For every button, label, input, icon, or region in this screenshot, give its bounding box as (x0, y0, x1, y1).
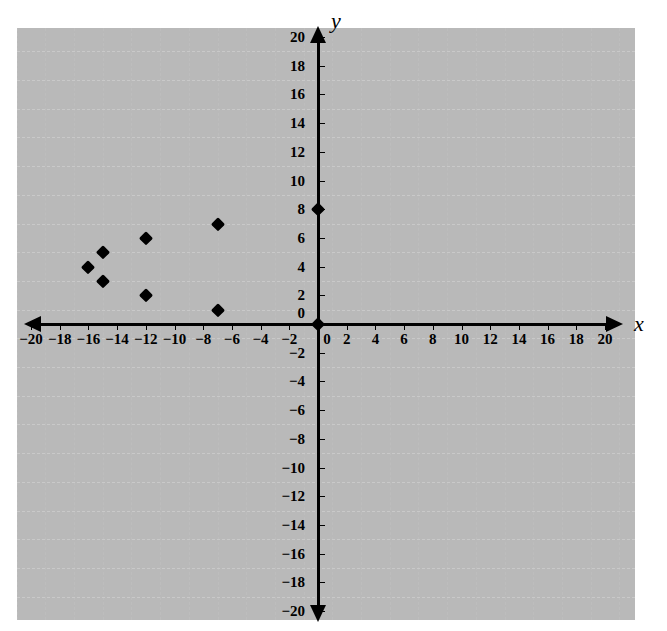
y-axis-tick (318, 238, 325, 239)
x-axis-tick (203, 323, 204, 330)
y-axis-tick-label: 6 (0, 229, 311, 246)
y-axis-tick (318, 525, 325, 526)
y-axis-tick (318, 353, 325, 354)
x-axis-tick (433, 323, 434, 330)
x-axis-tick-label: 12 (483, 331, 498, 348)
x-axis-tick (490, 323, 491, 330)
y-axis-tick (318, 468, 325, 469)
y-axis-tick-label: 18 (0, 57, 311, 74)
x-axis-tick-label: 14 (511, 331, 526, 348)
y-axis-tick-label: −18 (0, 574, 311, 591)
y-axis-tick-label: 0 (0, 305, 311, 322)
x-axis-tick-label: 18 (569, 331, 584, 348)
x-axis-tick-label: 0 (323, 331, 331, 348)
x-axis-tick-label: 16 (540, 331, 555, 348)
y-axis-tick (318, 94, 325, 95)
x-axis-tick (60, 323, 61, 330)
x-axis-tick (347, 323, 348, 330)
y-axis-tick-label: 10 (0, 172, 311, 189)
y-axis-tick (318, 152, 325, 153)
x-axis-tick (605, 323, 606, 330)
y-axis-tick-label: −16 (0, 545, 311, 562)
y-axis-tick (318, 496, 325, 497)
x-axis-tick (375, 323, 376, 330)
y-axis-tick (318, 410, 325, 411)
y-axis-tick (318, 295, 325, 296)
x-axis-line (38, 323, 614, 326)
x-axis-tick (175, 323, 176, 330)
y-axis-tick (318, 381, 325, 382)
x-axis-label: x (634, 311, 644, 337)
x-axis-tick (88, 323, 89, 330)
x-axis-tick-label: 6 (400, 331, 408, 348)
x-axis-arrow-right-icon (606, 316, 623, 332)
y-axis-tick-label: 2 (0, 287, 311, 304)
y-axis-tick (318, 611, 325, 612)
x-axis-tick (232, 323, 233, 330)
y-axis-tick-label: −12 (0, 488, 311, 505)
x-axis-tick (117, 323, 118, 330)
y-axis-tick-label: −2 (0, 344, 311, 361)
y-axis-tick (318, 554, 325, 555)
y-axis-tick-label: −20 (0, 603, 311, 620)
x-axis-tick (146, 323, 147, 330)
y-axis-tick (318, 267, 325, 268)
y-axis-tick-label: 8 (0, 201, 311, 218)
y-axis-tick (318, 66, 325, 67)
y-axis-tick (318, 582, 325, 583)
x-axis-tick-label: 4 (372, 331, 380, 348)
x-axis-tick (261, 323, 262, 330)
y-axis-tick (318, 181, 325, 182)
y-axis-tick-label: 4 (0, 258, 311, 275)
x-axis-tick (576, 323, 577, 330)
y-axis-label: y (331, 8, 341, 34)
x-axis-tick-label: 2 (343, 331, 351, 348)
x-axis-tick (289, 323, 290, 330)
y-axis-arrow-down-icon (310, 605, 326, 622)
x-axis-tick (519, 323, 520, 330)
y-axis-tick-label: 16 (0, 86, 311, 103)
y-axis-tick-label: 12 (0, 143, 311, 160)
x-axis-tick (462, 323, 463, 330)
coordinate-plane-figure: −20−18−16−14−12−10−8−6−4−202468101214161… (0, 0, 667, 631)
y-axis-tick-label: −6 (0, 402, 311, 419)
y-axis-tick (318, 123, 325, 124)
y-axis-tick-label: 20 (0, 29, 311, 46)
x-axis-tick-label: 20 (598, 331, 613, 348)
x-axis-tick-label: 8 (429, 331, 437, 348)
y-axis-tick-label: −8 (0, 430, 311, 447)
y-axis-tick-label: −10 (0, 459, 311, 476)
x-axis-tick (404, 323, 405, 330)
x-axis-tick-label: 10 (454, 331, 469, 348)
y-axis-tick-label: 14 (0, 115, 311, 132)
y-axis-tick (318, 439, 325, 440)
y-axis-tick-label: −4 (0, 373, 311, 390)
x-axis-tick (548, 323, 549, 330)
y-axis-tick (318, 37, 325, 38)
y-axis-arrow-up-icon (310, 26, 326, 43)
y-axis-tick-label: −14 (0, 516, 311, 533)
x-axis-tick (31, 323, 32, 330)
